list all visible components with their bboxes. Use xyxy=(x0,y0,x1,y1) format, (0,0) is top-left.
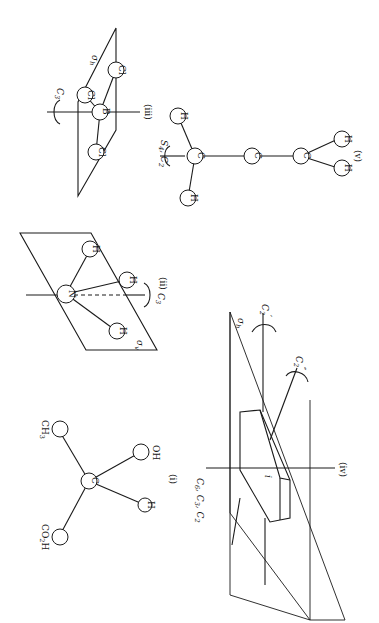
panel-ii-nh3: N H H H C3 (ii) σv xyxy=(20,233,168,350)
atom-cl-2-label: Cl xyxy=(117,65,127,75)
symmetry-elements-figure: B Cl Cl Cl C3 σh (iii) C C C H H H H S4 xyxy=(0,0,379,623)
oh-label: OH xyxy=(151,445,161,460)
panel-iv-label: (iv) xyxy=(338,462,348,477)
atom-h-2-label: H xyxy=(189,194,199,202)
c6-c3-c2-label: C6, C3, C2 xyxy=(193,478,205,523)
panel-i-label: (i) xyxy=(168,474,178,484)
ch3-label: CH3 xyxy=(38,420,50,439)
inversion-center-label: i xyxy=(263,475,273,478)
atom-h-3-label: H xyxy=(118,327,128,335)
c3-label: C3 xyxy=(154,293,166,304)
atom-cl-1-label: Cl xyxy=(86,90,96,100)
panel-ii-label: (ii) xyxy=(158,277,168,290)
atom-co2h xyxy=(52,529,68,545)
atom-n-label: N xyxy=(67,290,77,298)
bond xyxy=(60,481,89,535)
co2h-label: CO2H xyxy=(38,524,50,550)
panel-v-label: (v) xyxy=(353,150,363,162)
panel-iv-benzene: i σh C6, C3, C2 C2′ C2″ (iv) xyxy=(193,304,348,620)
panel-v-allene: C C C H H H H S4, C2 (v) xyxy=(157,108,363,206)
atom-h-1-label: H xyxy=(91,245,101,253)
rotation-arrow-icon xyxy=(252,325,276,333)
c2-dprime-axis xyxy=(270,368,297,440)
bond xyxy=(60,432,89,481)
panel-iii-bcl3: B Cl Cl Cl C3 σh (iii) xyxy=(47,28,153,196)
atom-ch3 xyxy=(52,421,68,437)
atom-h-3-label: H xyxy=(343,135,353,143)
sigma-h-label: σh xyxy=(234,318,246,328)
atom-c-2-label: C xyxy=(253,152,263,159)
atom-oh xyxy=(133,444,149,460)
s4-c2-label: S4, C2 xyxy=(157,140,169,167)
atom-c-label: C xyxy=(90,477,100,484)
panel-i-chiral-carbon: C H CH3 OH CO2H (i) xyxy=(38,420,178,550)
c2-prime-label: C2′ xyxy=(258,304,273,317)
c3-label: C3 xyxy=(53,88,65,99)
atom-c-1-label: C xyxy=(196,152,206,159)
atom-h-label: H xyxy=(146,501,156,509)
atom-h-2-label: H xyxy=(128,276,138,284)
atom-h-4-label: H xyxy=(343,164,353,172)
panel-iii-label: (iii) xyxy=(143,104,153,120)
atom-cl-3-label: Cl xyxy=(97,147,107,157)
atom-b-label: B xyxy=(101,108,111,115)
plane-edge xyxy=(230,595,310,620)
c2-dprime-axis-lower xyxy=(232,498,240,545)
sigma-h-plane xyxy=(230,312,345,620)
sigma-v-label: σv xyxy=(133,340,145,350)
atom-h-1-label: H xyxy=(179,112,189,120)
bond xyxy=(89,481,145,505)
atom-c-3-label: C xyxy=(302,152,312,159)
c2-dprime-label: C2″ xyxy=(292,356,307,371)
rotation-arrow-icon xyxy=(286,372,308,382)
